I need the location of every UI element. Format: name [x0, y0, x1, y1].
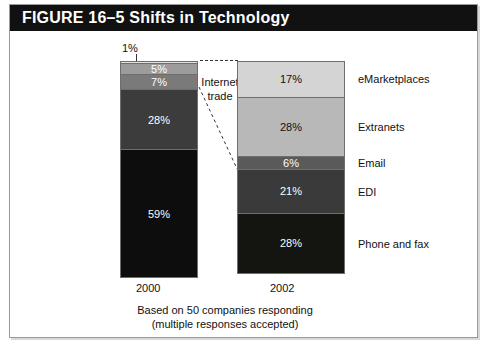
- internet-trade-annotation: Internet trade: [200, 75, 240, 103]
- bar-2000-segment-2[interactable]: 7%: [121, 75, 197, 90]
- bar-2002-segment-4[interactable]: 28%: [238, 214, 344, 273]
- category-label-edi: EDI: [358, 186, 376, 198]
- bar-2002-segment-value-1: 28%: [238, 121, 344, 132]
- bar-2002-segment-3[interactable]: 21%: [238, 170, 344, 214]
- bar-2002-segment-2[interactable]: 6%: [238, 157, 344, 170]
- stacked-bar-2002[interactable]: 17%28%6%21%28%: [237, 61, 345, 274]
- figure-caption: Based on 50 companies responding (multip…: [70, 303, 380, 331]
- bar-2000-segment-4[interactable]: 59%: [121, 150, 197, 277]
- figure-title: FIGURE 16–5 Shifts in Technology: [22, 9, 289, 27]
- bar-2000-segment-value-4: 59%: [121, 208, 197, 219]
- callout-label-1-percent: 1%: [122, 42, 138, 54]
- bar-2002-segment-value-2: 6%: [238, 157, 344, 168]
- axis-label-2000: 2000: [136, 282, 160, 294]
- bar-2002-segment-1[interactable]: 28%: [238, 98, 344, 157]
- bar-2000-segment-value-2: 7%: [121, 76, 197, 87]
- figure-container: FIGURE 16–5 Shifts in Technology 1% Inte…: [0, 0, 492, 347]
- bar-2000-segment-value-3: 28%: [121, 114, 197, 125]
- bar-2000-segment-3[interactable]: 28%: [121, 90, 197, 150]
- category-label-emarketplaces: eMarketplaces: [358, 73, 430, 85]
- bar-2000-segment-1[interactable]: 5%: [121, 64, 197, 75]
- bar-2002-segment-value-3: 21%: [238, 186, 344, 197]
- bar-2000-segment-value-1: 5%: [121, 64, 197, 74]
- axis-label-2002: 2002: [270, 282, 294, 294]
- caption-line-2: (multiple responses accepted): [70, 317, 380, 331]
- internet-trade-line2: trade: [200, 89, 240, 103]
- category-label-extranets: Extranets: [358, 121, 404, 133]
- category-label-phone-and-fax: Phone and fax: [358, 238, 429, 250]
- caption-line-1: Based on 50 companies responding: [70, 303, 380, 317]
- bar-2002-segment-0[interactable]: 17%: [238, 62, 344, 98]
- category-label-email: Email: [358, 157, 386, 169]
- chart-plot-area: 1% Internet trade 5%7%28%59% 17%28%6%21%…: [10, 31, 477, 337]
- bar-2002-segment-value-0: 17%: [238, 74, 344, 85]
- bar-2002-segment-value-4: 28%: [238, 238, 344, 249]
- connector-dashed-top: [200, 60, 238, 61]
- internet-trade-line1: Internet: [200, 75, 240, 89]
- stacked-bar-2000[interactable]: 5%7%28%59%: [120, 61, 198, 278]
